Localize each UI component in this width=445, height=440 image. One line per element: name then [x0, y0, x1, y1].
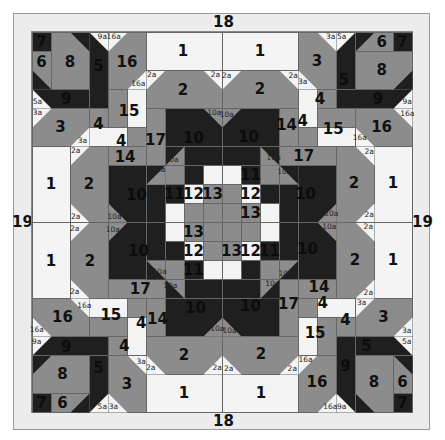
quilt-patch: [241, 203, 261, 223]
quilt-patch: [108, 336, 128, 356]
quilt-patch: [260, 241, 280, 261]
quilt-patch: [298, 127, 318, 147]
quilt-patch: [336, 317, 356, 337]
quilt-patch: [222, 260, 242, 280]
quilt-patch: [222, 165, 242, 185]
quilt-patch: [184, 203, 204, 223]
quilt-patch: [184, 165, 204, 185]
quilt-patch: [279, 146, 337, 166]
border-label-right: 19: [412, 215, 433, 230]
quilt-patch: [298, 317, 318, 356]
quilt-patch: [298, 89, 318, 128]
quilt-patch: [241, 260, 261, 280]
border-label-top: 18: [213, 15, 234, 30]
quilt-patch: [317, 317, 337, 356]
quilt-patch: [89, 127, 128, 147]
quilt-patch: [241, 165, 261, 185]
quilt-patch: [146, 32, 223, 71]
quilt-patch: [108, 279, 166, 299]
quilt-patch: [374, 222, 413, 299]
quilt-patch: [222, 222, 242, 242]
quilt-patch: [241, 241, 261, 261]
quilt-patch: [203, 203, 223, 223]
quilt-patch: [108, 146, 147, 166]
quilt-patch: [165, 165, 185, 185]
quilt-patch: [165, 260, 185, 280]
quilt-patch: [127, 127, 147, 147]
quilt-patch: [241, 184, 261, 204]
quilt-patch: [146, 298, 166, 337]
quilt-patch: [32, 393, 52, 413]
quilt-patch: [203, 184, 223, 204]
quilt-patch: [393, 32, 413, 52]
quilt-patch: [374, 146, 413, 223]
quilt-patch: [89, 298, 128, 318]
quilt-patch: [260, 203, 280, 223]
quilt-patch: [184, 146, 223, 166]
center-horizontal-line: [32, 222, 412, 223]
quilt-patch: [260, 184, 280, 204]
quilt-patch: [32, 146, 71, 223]
quilt-patch: [203, 260, 223, 280]
quilt-patch: [279, 279, 299, 337]
quilt-patch: [89, 317, 128, 337]
quilt-patch: [317, 89, 337, 109]
quilt-pattern-grid: 768169a16a16a5a3a344153a122a2a122a2a1714…: [32, 32, 412, 412]
quilt-patch: [279, 108, 299, 147]
quilt-patch: [184, 241, 204, 261]
quilt-patch: [108, 89, 128, 128]
quilt-patch: [203, 241, 223, 261]
quilt-patch: [203, 165, 223, 185]
quilt-patch: [165, 222, 185, 242]
quilt-patch: [184, 260, 204, 280]
quilt-patch: [260, 165, 280, 185]
quilt-patch: [165, 184, 185, 204]
quilt-patch: [222, 203, 242, 223]
quilt-patch: [260, 222, 280, 242]
quilt-patch: [222, 279, 261, 299]
border-label-bottom: 18: [213, 414, 234, 429]
quilt-patch: [127, 317, 147, 356]
quilt-patch: [279, 184, 299, 223]
quilt-patch: [127, 89, 147, 128]
quilt-patch: [165, 241, 185, 261]
quilt-patch: [165, 203, 185, 223]
quilt-patch: [279, 222, 299, 261]
quilt-patch: [298, 279, 337, 299]
quilt-patch: [127, 298, 147, 318]
quilt-patch: [222, 32, 299, 71]
quilt-patch: [89, 108, 109, 128]
quilt-patch: [32, 222, 71, 299]
quilt-patch: [222, 374, 299, 413]
quilt-patch: [184, 222, 204, 242]
quilt-patch: [317, 108, 356, 128]
quilt-patch: [146, 374, 223, 413]
quilt-patch: [222, 241, 242, 261]
quilt-patch: [222, 184, 242, 204]
quilt-patch: [317, 298, 356, 318]
quilt-patch: [184, 184, 204, 204]
quilt-patch: [260, 260, 280, 280]
quilt-patch: [393, 393, 413, 413]
quilt-patch: [222, 146, 261, 166]
quilt-patch: [241, 222, 261, 242]
quilt-patch: [32, 32, 52, 52]
quilt-patch: [298, 298, 318, 318]
quilt-patch: [184, 279, 223, 299]
border-label-left: 19: [12, 215, 33, 230]
quilt-patch: [146, 184, 166, 223]
quilt-patch: [146, 222, 166, 261]
quilt-patch: [203, 222, 223, 242]
quilt-patch: [317, 127, 356, 147]
quilt-patch: [146, 108, 166, 166]
